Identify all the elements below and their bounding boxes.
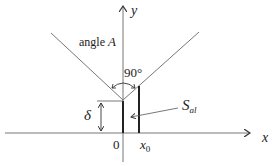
x0-subscript: 0: [146, 144, 151, 154]
s-al-label: Sal: [182, 98, 197, 115]
diagram-canvas: [0, 0, 275, 166]
right-angle-label: 90°: [124, 66, 142, 79]
angle-text: angle: [79, 35, 108, 49]
x-axis-label: x: [262, 131, 268, 145]
angle-a-label: angle A: [79, 35, 116, 48]
x0-label: x0: [140, 138, 150, 154]
delta-label: δ: [84, 108, 91, 123]
y-axis-label: y: [131, 4, 137, 18]
s-subscript: al: [190, 105, 197, 115]
s-main: S: [182, 97, 190, 113]
angle-variable: A: [108, 34, 116, 49]
origin-label: 0: [113, 138, 120, 151]
